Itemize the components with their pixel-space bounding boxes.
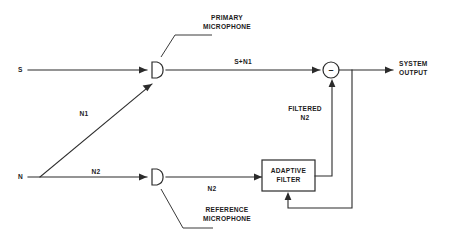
adaptive-filter-label-line1: ADAPTIVE <box>271 166 306 175</box>
summing-junction-minus-sign: – <box>328 66 333 75</box>
adaptive-noise-canceller-diagram: S N N1 N2 N2 S+N1 PRIMARY MICROPHONE REF… <box>0 0 453 250</box>
arrowhead-system-output <box>385 67 393 74</box>
arrowhead-filtered-n2-into-sum <box>329 79 336 87</box>
edge-filter-output-to-sum <box>315 83 332 176</box>
system-output-label-line2: OUTPUT <box>399 69 428 78</box>
system-output-label-line1: SYSTEM <box>399 60 428 69</box>
leader-line-primary-mic <box>161 35 175 57</box>
adaptive-filter-label: ADAPTIVE FILTER <box>271 166 306 184</box>
edge-label-n2-filter-input: N2 <box>208 185 217 194</box>
arrowhead-primary-mic-to-sum <box>312 67 320 74</box>
reference-microphone-caption-line2: MICROPHONE <box>203 215 251 224</box>
adaptive-filter-label-line2: FILTER <box>271 175 306 184</box>
primary-microphone-caption-line1: PRIMARY <box>203 14 251 23</box>
arrowhead-signal-to-primary-mic <box>139 67 147 74</box>
reference-microphone-caption-line1: REFERENCE <box>203 206 251 215</box>
input-label-signal: S <box>18 66 23 75</box>
arrowhead-reference-mic-to-filter <box>254 174 262 181</box>
edge-label-n2-reference: N2 <box>92 168 101 177</box>
reference-microphone-symbol <box>152 169 163 185</box>
edge-label-filtered-n2: FILTERED N2 <box>288 105 322 122</box>
arrowhead-noise-to-reference-mic <box>139 174 147 181</box>
system-output-label: SYSTEM OUTPUT <box>399 60 428 77</box>
edge-label-s-plus-n1: S+N1 <box>234 58 252 67</box>
leader-line-reference-mic <box>161 189 183 228</box>
edge-label-filtered-n2-line1: FILTERED <box>288 105 322 114</box>
arrowhead-error-feedback-into-filter <box>285 192 292 200</box>
primary-microphone-caption: PRIMARY MICROPHONE <box>203 14 251 31</box>
primary-microphone-symbol <box>152 62 163 78</box>
input-label-noise: N <box>18 173 23 182</box>
reference-microphone-caption: REFERENCE MICROPHONE <box>203 206 251 223</box>
edge-label-n1: N1 <box>80 110 89 119</box>
primary-microphone-caption-line2: MICROPHONE <box>203 23 251 32</box>
edge-noise-to-primary-mic <box>40 84 152 177</box>
edge-label-filtered-n2-line2: N2 <box>288 114 322 123</box>
